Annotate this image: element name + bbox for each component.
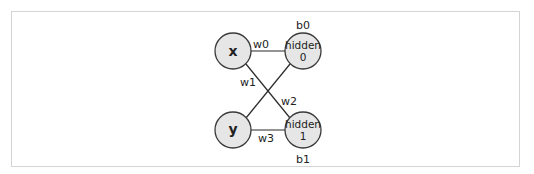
input-node-x: x <box>215 33 251 69</box>
input-node-label: x <box>228 43 237 59</box>
hidden-node-1: hidden 1 <box>285 112 321 148</box>
hidden-node-0: hidden 0 <box>285 33 321 69</box>
weight-label-w0: w0 <box>253 38 269 51</box>
hidden-node-label: hidden <box>285 118 321 130</box>
weight-label-w3: w3 <box>258 132 274 145</box>
hidden-node-index: 1 <box>300 130 307 142</box>
bias-label-b1: b1 <box>296 153 310 166</box>
input-node-label: y <box>228 121 237 137</box>
input-node-y: y <box>215 112 251 148</box>
weight-label-w1: w1 <box>240 76 256 89</box>
hidden-node-index: 0 <box>300 51 307 63</box>
bias-label-b0: b0 <box>296 19 310 32</box>
weight-label-w2: w2 <box>281 95 297 108</box>
network-diagram: w0 w1 w2 w3 x y hidden 0 hidden 1 b0 b1 <box>0 0 534 174</box>
hidden-node-label: hidden <box>285 39 321 51</box>
